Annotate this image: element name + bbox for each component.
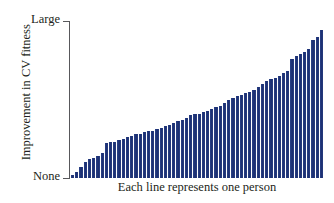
y-axis-title: Improvement in CV fitness (20, 12, 33, 172)
bar (320, 30, 323, 178)
plot-area (71, 21, 323, 178)
chart-figure: Improvement in CV fitness Large None Eac… (0, 0, 334, 203)
y-axis-tick-label-large: Large (0, 13, 60, 26)
y-axis-tick-label-none: None (0, 170, 60, 183)
bar-series (71, 21, 323, 178)
x-axis-title: Each line represents one person (60, 181, 334, 194)
y-axis-line (69, 21, 70, 178)
y-axis-tick-bottom (63, 178, 70, 179)
